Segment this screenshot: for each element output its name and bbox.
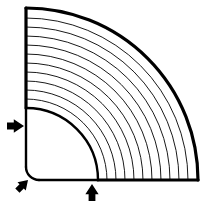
quarter-annulus-diagram bbox=[0, 0, 220, 209]
diagram-root: Quarter annulus sector with concentric a… bbox=[0, 0, 220, 209]
